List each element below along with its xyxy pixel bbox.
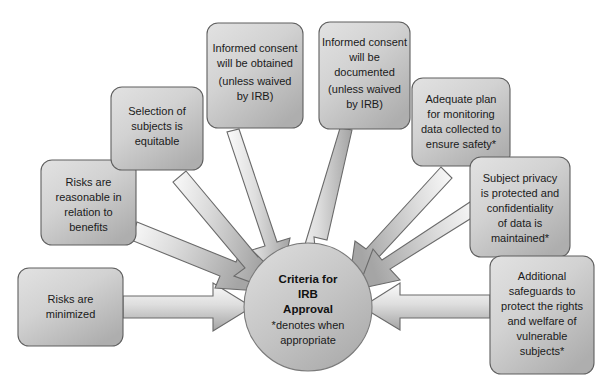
node-box[interactable] xyxy=(412,78,510,166)
node-label-line: subjects* xyxy=(520,345,565,357)
node-label-line: minimized xyxy=(46,308,96,320)
node-label-line: confidentiality xyxy=(487,202,554,214)
node-consent-obtained[interactable]: Informed consent will be obtained (unles… xyxy=(207,23,303,128)
node-additional-safeguards[interactable]: Additional safeguards to protect the rig… xyxy=(490,256,594,374)
node-label-line: documented xyxy=(334,66,395,78)
arrow-additional-safeguards xyxy=(362,283,490,330)
center-line-1: IRB xyxy=(298,288,318,300)
node-label-line: Selection of xyxy=(128,105,186,117)
center-note-1: appropriate xyxy=(280,334,336,346)
node-label-line: Subject privacy xyxy=(483,172,558,184)
node-label-line: equitable xyxy=(135,135,180,147)
node-adequate-plan-monitoring[interactable]: Adequate plan for monitoring data collec… xyxy=(412,78,510,166)
node-label-line: of data is xyxy=(498,217,543,229)
node-label-line: Risks are xyxy=(66,176,112,188)
node-box[interactable] xyxy=(18,268,123,346)
node-label-line: benefits xyxy=(69,221,108,233)
node-label-line: ensure safety* xyxy=(426,138,497,150)
node-label-line: maintained* xyxy=(491,232,550,244)
node-label-line: Risks are xyxy=(48,293,94,305)
node-label-line: is protected and xyxy=(481,187,559,199)
node-label-line: Additional xyxy=(518,270,566,282)
irb-criteria-diagram: Criteria for IRB Approval *denotes when … xyxy=(0,0,606,391)
node-consent-documented[interactable]: Informed consent will be documented (unl… xyxy=(319,22,410,129)
node-label-line: will be xyxy=(348,51,380,63)
center-line-0: Criteria for xyxy=(279,273,338,285)
node-label-line: reasonable in xyxy=(55,191,121,203)
node-label-line: (unless waived xyxy=(219,75,292,87)
node-label-line: relation to xyxy=(64,206,112,218)
diagram-canvas: Criteria for IRB Approval *denotes when … xyxy=(0,0,606,391)
node-label-line: will be obtained xyxy=(216,57,293,69)
node-label-line: by IRB) xyxy=(346,98,383,110)
node-label-line: Informed consent xyxy=(213,42,298,54)
node-label-line: for monitoring xyxy=(427,108,494,120)
node-label-line: and welfare of xyxy=(507,315,577,327)
node-label-line: by IRB) xyxy=(237,90,274,102)
node-label-line: (unless waived xyxy=(328,83,401,95)
node-label-line: Informed consent xyxy=(322,36,407,48)
node-label-line: protect the rights xyxy=(501,300,583,312)
node-label-line: Adequate plan xyxy=(426,93,497,105)
node-selection-equitable[interactable]: Selection of subjects is equitable xyxy=(111,87,203,170)
node-risks-minimized[interactable]: Risks are minimized xyxy=(18,268,123,346)
node-label-line: safeguards to xyxy=(509,285,576,297)
arrow-risks-minimized xyxy=(123,283,252,331)
center-line-2: Approval xyxy=(283,303,333,315)
center-note-0: *denotes when xyxy=(272,319,345,331)
node-label-line: subjects is xyxy=(131,120,183,132)
node-label-line: data collected to xyxy=(421,123,501,135)
node-subject-privacy[interactable]: Subject privacy is protected and confide… xyxy=(470,157,570,257)
node-risks-reasonable[interactable]: Risks are reasonable in relation to bene… xyxy=(41,160,136,245)
node-label-line: vulnerable xyxy=(517,330,568,342)
criteria-for-irb-approval-node: Criteria for IRB Approval *denotes when … xyxy=(244,243,372,371)
